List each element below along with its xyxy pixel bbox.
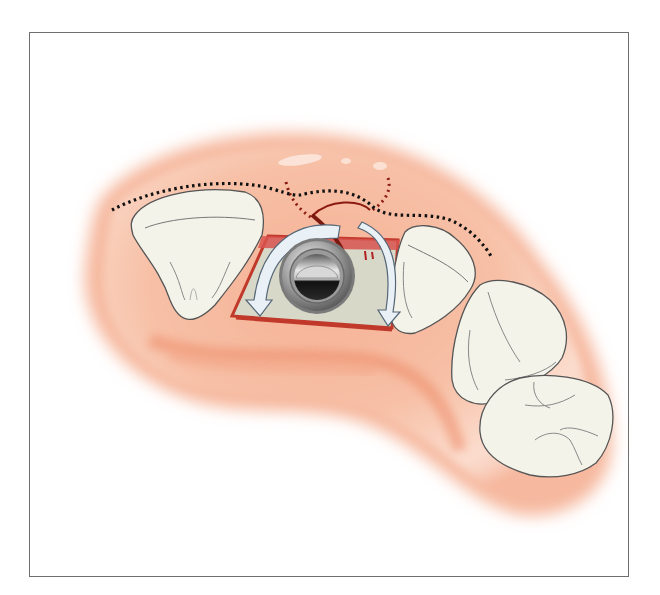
premolar <box>480 375 613 477</box>
dental-illustration <box>0 0 660 595</box>
healing-abutment <box>279 238 355 314</box>
